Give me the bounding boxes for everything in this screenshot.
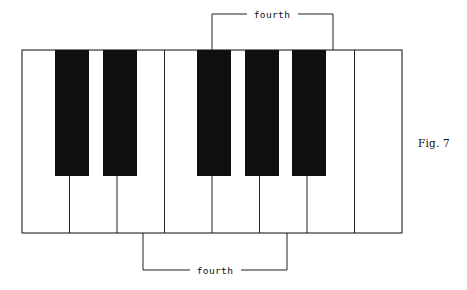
black-key-5[interactable] [292, 50, 326, 176]
figure-caption: Fig. 7 [418, 137, 450, 149]
piano-keyboard-diagram: fourth fourth [0, 0, 467, 290]
top-bracket-label: fourth [254, 9, 291, 20]
bottom-fourth-bracket: fourth [143, 233, 287, 276]
black-key-1[interactable] [55, 50, 89, 176]
black-key-3[interactable] [197, 50, 231, 176]
bottom-bracket-label: fourth [197, 265, 234, 276]
black-key-4[interactable] [245, 50, 279, 176]
black-key-2[interactable] [103, 50, 137, 176]
figure-container: fourth fourth Fig. 7 [0, 0, 467, 290]
top-fourth-bracket: fourth [212, 9, 333, 51]
